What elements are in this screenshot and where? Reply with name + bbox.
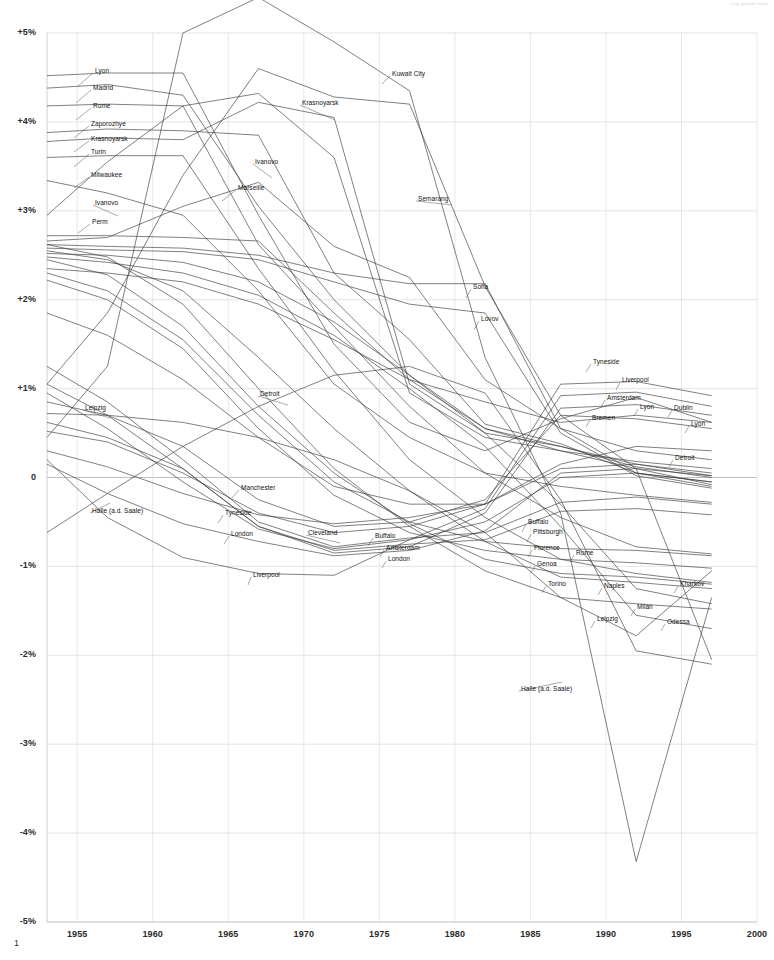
- series-label-buffalo: Buffalo: [528, 518, 548, 525]
- y-tick-1: -1%: [2, 560, 36, 570]
- label-leader-lines: [74, 73, 689, 691]
- y-tick-3: -3%: [2, 738, 36, 748]
- series-label-amsterdam: Amsterdam: [386, 544, 420, 551]
- series-label-kuwait-city: Kuwait City: [392, 70, 425, 77]
- series-label-ivanovo: Ivanovo: [255, 158, 278, 165]
- y-tick-3: +3%: [2, 205, 36, 215]
- series-label-florence: Florence: [534, 544, 560, 551]
- x-tick-1975: 1975: [359, 929, 399, 939]
- page-number: 1: [14, 938, 19, 948]
- series-label-dublin: Dublin: [674, 404, 693, 411]
- series-label-liverpool: Liverpool: [253, 571, 280, 578]
- series-label-buffalo: Buffalo: [375, 532, 395, 539]
- series-label-leipzig: Leipzig: [85, 404, 106, 411]
- series-label-bremen: Bremen: [592, 414, 615, 421]
- series-label-torino: Torino: [548, 580, 566, 587]
- series-label-milan: Milan: [637, 603, 653, 610]
- y-tick-2: +2%: [2, 294, 36, 304]
- y-tick-4: -4%: [2, 827, 36, 837]
- series-label-krasnoyarsk: Krasnoyarsk: [91, 135, 128, 142]
- horizontal-gridlines: [47, 33, 757, 922]
- x-tick-1970: 1970: [284, 929, 324, 939]
- chart-page: City growth rates +5%+4%+3%+2%+1%0-1%-2%…: [0, 0, 774, 960]
- series-label-detroit: Detroit: [260, 390, 280, 397]
- series-label-halle-a-d-saale: Halle (a.d. Saale): [92, 507, 143, 514]
- y-tick-5: -5%: [2, 916, 36, 926]
- series-label-semarang: Semarang: [418, 195, 448, 202]
- series-label-manchester: Manchester: [241, 484, 275, 491]
- series-label-ivanovo: Ivanovo: [95, 199, 118, 206]
- y-tick-2: -2%: [2, 649, 36, 659]
- series-label-rome: Rome: [576, 549, 594, 556]
- series-label-perm: Perm: [92, 218, 108, 225]
- x-tick-1990: 1990: [586, 929, 626, 939]
- x-tick-1955: 1955: [57, 929, 97, 939]
- y-tick-1: +1%: [2, 383, 36, 393]
- series-label-rome: Rome: [93, 102, 111, 109]
- series-label-zaporozhye: Zaporozhye: [91, 120, 126, 127]
- series-label-krasnoyarsk: Krasnoyarsk: [302, 99, 339, 106]
- series-label-leipzig: Leipzig: [597, 615, 618, 622]
- series-label-milwaukee: Milwaukee: [91, 171, 122, 178]
- series-label-madrid: Madrid: [93, 84, 113, 91]
- series-label-marseille: Marseille: [238, 184, 264, 191]
- x-tick-1960: 1960: [133, 929, 173, 939]
- y-tick-4: +4%: [2, 116, 36, 126]
- series-label-genoa: Genoa: [537, 560, 557, 567]
- series-label-turin: Turin: [91, 148, 106, 155]
- series-label-detroit: Detroit: [675, 454, 695, 461]
- series-label-tyneside: Tyneside: [593, 358, 619, 365]
- series-label-cleveland: Cleveland: [308, 529, 337, 536]
- series-label-sofia: Sofia: [473, 283, 488, 290]
- series-label-lyon: Lyon: [691, 420, 705, 427]
- series-label-liverpool: Liverpool: [622, 376, 649, 383]
- series-label-london: London: [388, 555, 410, 562]
- series-label-lyon: Lyon: [95, 67, 109, 74]
- x-tick-1980: 1980: [435, 929, 475, 939]
- x-tick-1965: 1965: [208, 929, 248, 939]
- x-tick-1995: 1995: [661, 929, 701, 939]
- y-tick-0: 0: [2, 472, 36, 482]
- x-tick-1985: 1985: [510, 929, 550, 939]
- series-label-odessa: Odessa: [667, 618, 690, 625]
- series-label-kharkov: Kharkov: [680, 580, 704, 587]
- series-label-lyon: Lyon: [640, 403, 654, 410]
- series-label-halle-a-d-saale: Halle (a.d. Saale): [521, 685, 572, 692]
- series-label-pittsburgh: Pittsburgh: [533, 528, 563, 535]
- series-label-naples: Naples: [604, 582, 625, 589]
- series-label-amsterdam: Amsterdam: [607, 394, 641, 401]
- series-label-lovov: Lovov: [481, 315, 499, 322]
- y-tick-5: +5%: [2, 27, 36, 37]
- x-tick-2000: 2000: [737, 929, 774, 939]
- series-label-tyneside: Tyneside: [225, 509, 251, 516]
- series-label-london: London: [231, 530, 253, 537]
- line-chart-canvas: [0, 0, 774, 960]
